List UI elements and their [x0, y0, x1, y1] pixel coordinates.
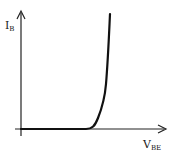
ib-vbe-plot: [0, 0, 172, 155]
characteristic-curve: [21, 14, 110, 129]
y-axis-label: IB: [5, 20, 15, 33]
x-axis-label: VBE: [143, 139, 161, 152]
